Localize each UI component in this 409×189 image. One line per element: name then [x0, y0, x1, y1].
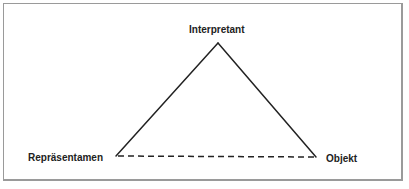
node-label-repraesentamen: Repräsentamen: [28, 153, 103, 163]
edge-repraesentamen-interpretant: [116, 43, 218, 156]
edge-repraesentamen-objekt-dashed: [118, 156, 316, 157]
edge-interpretant-objekt: [218, 43, 316, 157]
node-label-objekt: Objekt: [326, 154, 357, 164]
node-label-interpretant: Interpretant: [189, 25, 245, 35]
